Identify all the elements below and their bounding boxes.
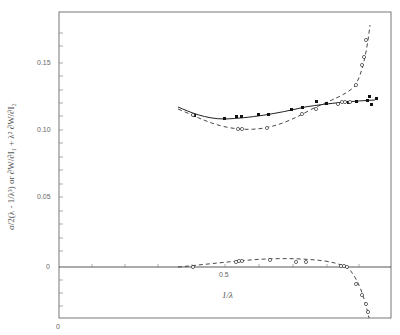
x-axis-title: 1/λ — [222, 290, 233, 300]
y-tick-label-0.05: 0.05 — [37, 193, 51, 200]
y-tick-label-0: 0 — [46, 263, 50, 270]
x-tick-label-0.5: 0.5 — [219, 271, 229, 278]
open-data-points-upper — [191, 38, 367, 130]
y-axis-title: σ/2(λ - 1/λ³) or ∂W/∂I₁ + λ² ∂W/∂I₂ — [6, 103, 16, 230]
chart-canvas: 0.15 0.10 0.05 0 0.5 0 1/λ σ/2(λ - 1/λ³)… — [0, 0, 400, 335]
y-tick-label-0.10: 0.10 — [37, 126, 51, 133]
y-tick-label-0.15: 0.15 — [37, 59, 51, 66]
y-axis-ticks — [59, 33, 63, 306]
x-origin-label: 0 — [56, 323, 60, 330]
filled-data-points — [193, 95, 378, 120]
